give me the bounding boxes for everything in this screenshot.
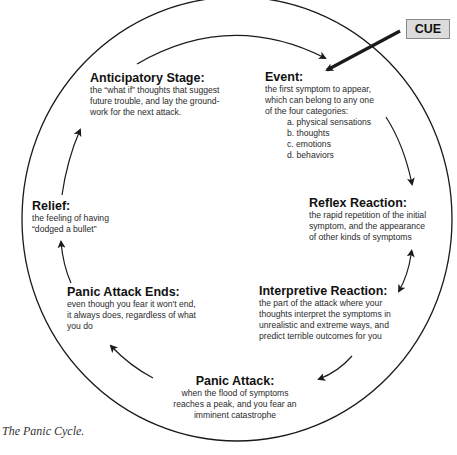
stage-desc-line: thoughts interpret the symptoms in [259, 309, 391, 320]
cue-box: CUE [406, 19, 450, 39]
stage-desc-line: predict terrible outcomes for you [259, 331, 391, 342]
arrow-relief-to-anticipatory [62, 130, 80, 195]
stage-title: Panic Attack Ends: [67, 285, 196, 299]
arrow-event-to-reflex [386, 117, 412, 184]
stage-desc-line: imminent catastrophe [160, 410, 310, 421]
category-item: c. emotions [265, 139, 374, 150]
stage-desc-line: the part of the attack where your [259, 298, 391, 309]
stage-desc-line: symptom, and the appearance [309, 221, 426, 232]
category-item: a. physical sensations [265, 117, 374, 128]
stage-panic-attack: Panic Attack: when the flood of symptoms… [160, 374, 310, 421]
stage-title: Reflex Reaction: [309, 196, 426, 210]
category-item: d. behaviors [265, 150, 374, 161]
stage-desc-line: of the four categories: [265, 106, 374, 117]
stage-desc-line: the first symptom to appear, [265, 84, 374, 95]
stage-anticipatory: Anticipatory Stage: the “what if” though… [90, 71, 219, 118]
stage-title: Event: [265, 70, 374, 84]
stage-desc-line: the feeling of having [32, 213, 109, 224]
stage-desc-line: work for the next attack. [90, 107, 219, 118]
stage-desc-line: the rapid repetition of the initial [309, 210, 426, 221]
stage-desc-line: which can belong to any one [265, 95, 374, 106]
stage-title: Panic Attack: [160, 374, 310, 388]
stage-desc-line: future trouble, and lay the ground- [90, 96, 219, 107]
stage-desc-line: reaches a peak, and you fear an [160, 399, 310, 410]
category-item: b. thoughts [265, 128, 374, 139]
stage-reflex-reaction: Reflex Reaction: the rapid repetition of… [309, 196, 426, 243]
stage-desc-line: the “what if” thoughts that suggest [90, 85, 219, 96]
stage-desc-line: when the flood of symptoms [160, 388, 310, 399]
arrow-panic-to-ends [111, 346, 153, 378]
stage-desc-line: even though you fear it won't end, [67, 299, 196, 310]
stage-desc-line: it always does, regardless of what [67, 310, 196, 321]
figure-caption: The Panic Cycle. [2, 424, 84, 439]
stage-panic-attack-ends: Panic Attack Ends: even though you fear … [67, 285, 196, 332]
stage-title: Anticipatory Stage: [90, 71, 219, 85]
stage-desc-line: you do [67, 321, 196, 332]
stage-desc-line: “dodged a bullet” [32, 224, 109, 235]
stage-relief: Relief: the feeling of having “dodged a … [32, 199, 109, 235]
arrow-anticipatory-to-event [137, 35, 325, 64]
arrow-reflex-to-interpretive [399, 255, 411, 291]
stage-event: Event: the first symptom to appear, whic… [265, 70, 374, 161]
cue-arrow [327, 31, 400, 70]
stage-desc-line: unrealistic and extreme ways, and [259, 320, 391, 331]
stage-desc-line: of other kinds of symptoms [309, 232, 426, 243]
stage-title: Relief: [32, 199, 109, 213]
stage-interpretive-reaction: Interpretive Reaction: the part of the a… [259, 284, 391, 342]
arrow-interpretive-to-panic [319, 356, 352, 379]
arrow-ends-to-relief [61, 242, 71, 283]
stage-title: Interpretive Reaction: [259, 284, 391, 298]
